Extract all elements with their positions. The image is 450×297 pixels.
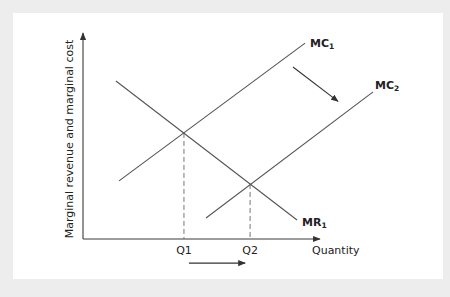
curve-mc1: [119, 43, 305, 181]
mr-mc-diagram: Marginal revenue and marginal cost Quant…: [0, 0, 450, 297]
plot-layer: Q1Q2MR1MC1MC2: [116, 37, 399, 263]
mc-shift-arrow: [293, 67, 338, 101]
x-axis-label: Quantity: [312, 244, 360, 257]
tick-label-q1: Q1: [176, 244, 192, 257]
curve-mr1: [116, 81, 297, 220]
curve-label-mc1: MC1: [310, 37, 334, 51]
tick-label-q2: Q2: [242, 244, 258, 257]
curve-label-mc2: MC2: [375, 79, 399, 93]
curve-mc2: [206, 92, 373, 218]
y-axis-label: Marginal revenue and marginal cost: [63, 39, 76, 238]
curve-label-mr1: MR1: [302, 216, 327, 230]
